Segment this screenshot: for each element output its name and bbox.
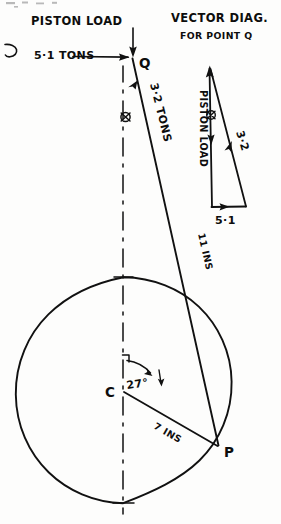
- crank-angle-label: 27°: [126, 376, 150, 392]
- point-p-label: P: [224, 444, 234, 460]
- engineering-drawing: PISTON LOAD 5·1 TONS Q 3·2 TONS 11 INS C…: [0, 0, 281, 524]
- point-c-label: C: [105, 384, 115, 400]
- rod-force-label: 3·2 TONS: [147, 82, 174, 144]
- point-q-label: Q: [139, 55, 151, 71]
- rod-length-label: 11 INS: [196, 232, 215, 271]
- crank-circle: [16, 277, 232, 503]
- piston-force-label: 5·1 TONS: [34, 49, 95, 62]
- vector-diagram-title-line1: VECTOR DIAG.: [171, 11, 268, 25]
- piston-load-arrow: [129, 28, 137, 58]
- scan-speckles: [6, 2, 57, 8]
- vector-base-label: 5·1: [215, 214, 236, 227]
- curl-mark: [5, 44, 17, 56]
- centre-line: [113, 66, 134, 514]
- rod-force-arrowhead: [128, 81, 137, 90]
- vector-diagram-title-line2: FOR POINT Q: [180, 30, 253, 41]
- vector-hypotenuse-label: 3·2: [233, 129, 251, 153]
- piston-load-title: PISTON LOAD: [31, 14, 122, 28]
- figure-canvas: PISTON LOAD 5·1 TONS Q 3·2 TONS 11 INS C…: [0, 0, 281, 524]
- vector-piston-load-label: PISTON LOAD: [198, 90, 209, 167]
